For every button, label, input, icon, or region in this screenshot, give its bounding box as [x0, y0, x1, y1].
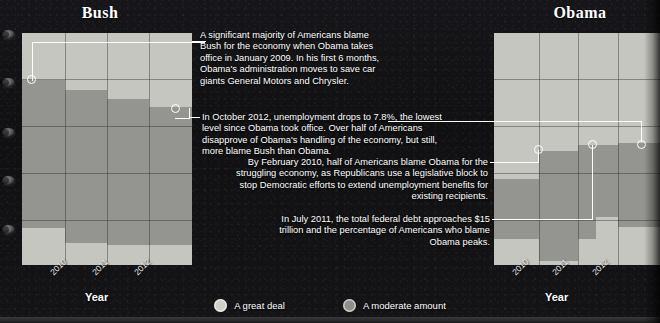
legend-item-moderate-amount[interactable]: A moderate amount	[343, 299, 446, 312]
area-moderate-bush	[22, 80, 65, 228]
gridline-v	[618, 33, 619, 265]
legend: A great deal A moderate amount	[0, 295, 660, 315]
marker-obama-feb-2010	[534, 145, 543, 154]
legend-swatch-moderate-amount	[343, 299, 356, 312]
footer-rule	[0, 317, 660, 323]
leader-line-obama-feb-2010	[490, 162, 539, 163]
area-moderate-bush	[149, 107, 192, 245]
legend-item-great-deal[interactable]: A great deal	[214, 299, 285, 312]
leader-line-obama-jul-2011-riser	[592, 145, 593, 220]
panel-title-bush: Bush	[0, 4, 200, 22]
leader-line-bush-oct-2012-tail	[189, 117, 200, 118]
annotation-obama-feb-2010: By February 2010, half of Americans blam…	[218, 157, 488, 203]
plot-area-obama	[494, 33, 660, 265]
legend-swatch-great-deal	[214, 299, 227, 312]
annotation-bush-2009: A significant majority of Americans blam…	[200, 30, 390, 87]
gridline-v	[578, 33, 579, 265]
infographic-page: Bush 2010 2011 2012 Year Obama	[0, 0, 660, 323]
gridline-h	[494, 79, 660, 80]
marker-obama-jul-2011	[588, 140, 597, 149]
leader-line-obama-2012	[388, 121, 642, 122]
area-moderate-obama	[494, 179, 539, 239]
leader-line-bush-2009	[32, 42, 205, 81]
legend-label-moderate-amount: A moderate amount	[363, 300, 446, 311]
legend-label-great-deal: A great deal	[234, 300, 285, 311]
marker-bush-2009	[27, 75, 36, 84]
gridline-h	[494, 220, 660, 221]
area-moderate-obama	[578, 145, 596, 239]
area-moderate-obama	[618, 143, 660, 227]
area-moderate-obama	[596, 145, 618, 217]
annotation-obama-jul-2011: In July 2011, the total federal debt app…	[258, 214, 490, 248]
area-moderate-bush	[107, 99, 149, 245]
leader-line-obama-2012-riser	[641, 121, 642, 142]
gridline-h	[494, 126, 660, 127]
gridline-h	[494, 173, 660, 174]
leader-line-bush-oct-2012	[175, 108, 190, 119]
annotation-bush-oct-2012: In October 2012, unemployment drops to 7…	[202, 112, 454, 158]
leader-line-obama-jul-2011	[492, 219, 593, 220]
marker-obama-2012	[637, 140, 646, 149]
panel-title-obama: Obama	[520, 4, 640, 22]
panel-obama: Obama 2010 2011 2012 Year	[460, 0, 660, 300]
area-moderate-obama	[539, 151, 578, 261]
